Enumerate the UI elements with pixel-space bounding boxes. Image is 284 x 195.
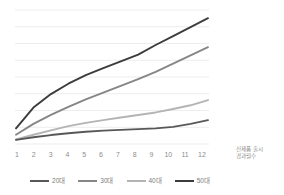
x-axis-tick-label: 11 <box>179 150 191 159</box>
x-axis-tick-label: 12 <box>196 150 208 159</box>
chart-legend: 20대30대40대50대 <box>0 174 240 188</box>
series-line <box>16 120 208 140</box>
line-chart: 123456789101112 신제품 출시 경과월수 20대30대40대50대 <box>0 0 284 195</box>
series-line <box>16 18 208 128</box>
x-axis-tick-label: 2 <box>28 150 40 159</box>
x-axis-tick-label: 5 <box>78 150 90 159</box>
series-line <box>16 100 208 139</box>
legend-swatch-icon <box>30 180 49 182</box>
x-axis-tick-label: 10 <box>162 150 174 159</box>
x-axis-tick-label: 8 <box>129 150 141 159</box>
series-lines <box>16 18 208 140</box>
x-axis-tick-label: 7 <box>112 150 124 159</box>
legend-item-label: 40대 <box>149 177 162 185</box>
x-axis-tick-label: 9 <box>146 150 158 159</box>
legend-item-label: 30대 <box>100 177 113 185</box>
gridlines <box>15 10 209 144</box>
x-axis-tick-label: 6 <box>95 150 107 159</box>
legend-item[interactable]: 20대 <box>30 177 65 185</box>
x-axis-tick-label: 4 <box>61 150 73 159</box>
x-axis-title: 신제품 출시 경과월수 <box>236 146 284 160</box>
chart-plot-area <box>0 0 284 195</box>
x-axis-tick-labels: 123456789101112 <box>16 148 208 160</box>
legend-swatch-icon <box>175 180 194 182</box>
legend-item[interactable]: 40대 <box>127 177 162 185</box>
x-axis-tick-label: 1 <box>11 150 23 159</box>
legend-swatch-icon <box>78 180 97 182</box>
legend-swatch-icon <box>127 180 146 182</box>
x-axis-tick-label: 3 <box>45 150 57 159</box>
legend-item-label: 50대 <box>197 177 210 185</box>
legend-item-label: 20대 <box>52 177 65 185</box>
legend-item[interactable]: 50대 <box>175 177 210 185</box>
legend-item[interactable]: 30대 <box>78 177 113 185</box>
x-axis-title-line-2: 경과월수 <box>236 153 284 160</box>
